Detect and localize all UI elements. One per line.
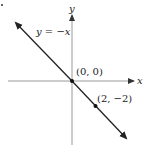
point-2-neg2 [94,104,98,108]
line-y-equals-negative-x-lower [72,81,126,138]
point-2-neg2-label: (2, −2) [97,93,132,104]
y-axis-label: y [68,3,75,14]
graph-canvas: y x y = −x (0, 0) (2, −2) [0,0,144,150]
origin-label: (0, 0) [76,66,103,77]
x-axis-label: x [137,75,143,86]
list-bullet-icon [1,4,3,6]
line-label: y = −x [35,26,71,37]
point-origin [70,79,74,83]
